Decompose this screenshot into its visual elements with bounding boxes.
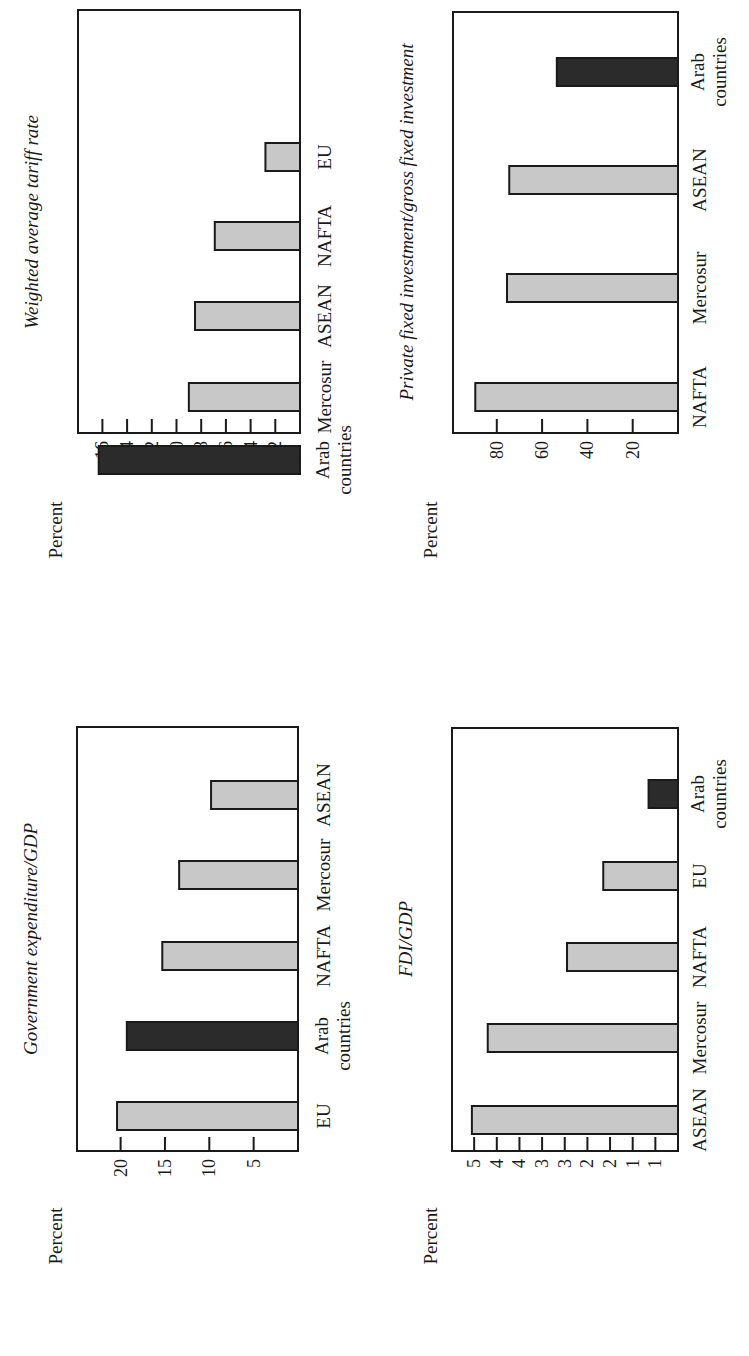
y-axis-tick-label: 3 <box>555 1159 575 1168</box>
bar-nafta <box>215 222 300 250</box>
y-axis-tick-label: 2 <box>600 1159 620 1168</box>
category-label: NAFTA <box>689 366 710 428</box>
y-axis-tick-label: 1 <box>645 1159 665 1168</box>
figure-canvas: Weighted average tariff rate Percent 246… <box>0 0 749 1356</box>
y-axis-tick-label: 4 <box>487 1159 507 1168</box>
bar-arab-countries <box>127 1022 298 1050</box>
bars <box>99 143 300 474</box>
y-axis-ticks <box>474 1137 655 1151</box>
category-labels: ASEANMercosurNAFTAEUArabcountries <box>687 759 730 1152</box>
chart-panel-private-investment: Private fixed investment/gross fixed inv… <box>396 12 730 558</box>
category-label: EU <box>314 144 335 170</box>
category-label: ASEAN <box>689 148 710 212</box>
bar-eu <box>265 143 300 171</box>
y-axis-tick-label: 4 <box>509 1159 529 1168</box>
y-axis-tick-labels: 5101520 <box>111 1159 264 1177</box>
category-label: EU <box>313 1103 334 1129</box>
y-axis-label: Percent <box>420 501 441 559</box>
category-label: ASEAN <box>689 1088 710 1152</box>
category-label: Arabcountries <box>312 425 355 495</box>
plot-frame <box>452 728 678 1151</box>
bar-asean <box>195 302 300 330</box>
y-axis-label: Percent <box>45 501 66 559</box>
chart-title: FDI/GDP <box>395 901 416 978</box>
chart-panel-government-expenditure: Government expenditure/GDP Percent 51015… <box>20 727 354 1264</box>
bar-mercosur <box>189 383 300 411</box>
chart-panel-fdi: FDI/GDP Percent 112233445 ASEANMercosurN… <box>395 728 730 1264</box>
y-axis-tick-label: 5 <box>244 1159 264 1168</box>
y-axis-label: Percent <box>420 1207 441 1265</box>
chart-title: Weighted average tariff rate <box>21 115 42 329</box>
bar-eu <box>603 862 678 890</box>
y-axis-tick-label: 3 <box>532 1159 552 1168</box>
y-axis-tick-label: 60 <box>532 441 552 459</box>
bar-mercosur <box>488 1024 678 1052</box>
category-label: Mercosur <box>314 360 335 433</box>
category-labels: NAFTAMercosurASEANArabcountries <box>687 37 730 428</box>
category-label: NAFTA <box>689 926 710 988</box>
figure: Weighted average tariff rate Percent 246… <box>0 0 749 1356</box>
category-labels: ArabcountriesMercosurASEANNAFTAEU <box>312 144 355 495</box>
bars <box>475 58 678 411</box>
y-axis-tick-label: 10 <box>199 1159 219 1177</box>
y-axis-tick-label: 1 <box>623 1159 643 1168</box>
bar-mercosur <box>507 274 678 302</box>
y-axis-tick-labels: 20406080 <box>487 441 643 459</box>
y-axis-ticks <box>497 419 633 433</box>
y-axis-tick-label: 20 <box>623 441 643 459</box>
category-label: Mercosur <box>313 838 334 911</box>
y-axis-tick-label: 40 <box>577 441 597 459</box>
y-axis-ticks <box>121 1137 254 1151</box>
bars <box>117 781 298 1130</box>
bar-mercosur <box>179 861 298 889</box>
category-label: ASEAN <box>313 763 334 827</box>
category-label: Arabcountries <box>311 1001 354 1071</box>
bars <box>472 780 678 1134</box>
category-label: Mercosur <box>689 251 710 324</box>
y-axis-tick-label: 2 <box>577 1159 597 1168</box>
y-axis-tick-label: 15 <box>155 1159 175 1177</box>
bar-nafta <box>567 943 678 971</box>
category-label: NAFTA <box>313 925 334 987</box>
bar-asean <box>211 781 298 809</box>
chart-title: Private fixed investment/gross fixed inv… <box>396 43 417 402</box>
chart-panel-tariff: Weighted average tariff rate Percent 246… <box>21 10 355 558</box>
y-axis-tick-label: 20 <box>111 1159 131 1177</box>
bar-nafta <box>475 383 678 411</box>
bar-arab-countries <box>557 58 678 86</box>
bar-asean <box>472 1106 678 1134</box>
bar-eu <box>117 1102 298 1130</box>
category-labels: EUArabcountriesNAFTAMercosurASEAN <box>311 763 354 1129</box>
category-label: NAFTA <box>314 205 335 267</box>
y-axis-tick-labels: 112233445 <box>464 1159 665 1168</box>
category-label: Arabcountries <box>687 37 730 107</box>
bar-nafta <box>162 942 298 970</box>
y-axis-label: Percent <box>45 1207 66 1265</box>
bar-arab-countries <box>99 446 300 474</box>
y-axis-tick-label: 80 <box>487 441 507 459</box>
chart-title: Government expenditure/GDP <box>20 823 41 1055</box>
category-label: Mercosur <box>689 1001 710 1074</box>
bar-arab-countries <box>649 780 678 808</box>
y-axis-ticks <box>102 419 275 433</box>
y-axis-tick-label: 5 <box>464 1159 484 1168</box>
category-label: ASEAN <box>314 284 335 348</box>
bar-asean <box>509 166 678 194</box>
category-label: EU <box>689 863 710 889</box>
category-label: Arabcountries <box>687 759 730 829</box>
